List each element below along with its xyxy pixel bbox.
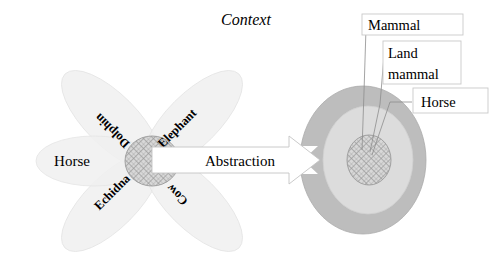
callout-label-mammal: Mammal bbox=[368, 17, 420, 33]
figure-canvas: Horse Dolphin Elephant Echidna Cow Conte… bbox=[0, 0, 492, 279]
callout-land-mammal[interactable]: Land mammal bbox=[383, 41, 461, 84]
callout-label-land-mammal-line1: Land bbox=[388, 45, 419, 61]
ring-core-horse bbox=[347, 135, 391, 185]
callout-horse[interactable]: Horse bbox=[413, 88, 488, 113]
callout-mammal[interactable]: Mammal bbox=[362, 14, 463, 35]
figure-title: Context bbox=[221, 11, 271, 28]
callout-label-land-mammal-line2: mammal bbox=[388, 66, 439, 82]
diagram-svg: Horse Dolphin Elephant Echidna Cow Conte… bbox=[0, 0, 492, 279]
callout-label-horse: Horse bbox=[421, 94, 456, 110]
petal-label-horse: Horse bbox=[54, 153, 90, 169]
abstraction-arrow-label: Abstraction bbox=[205, 153, 275, 169]
